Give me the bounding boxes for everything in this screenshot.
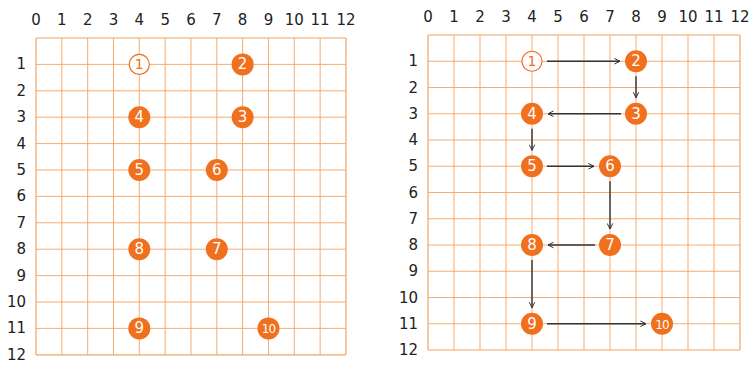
svg-text:1: 1	[528, 53, 537, 69]
grid-panel-right: 0123456789101112123456789101112123456789…	[0, 0, 754, 377]
y-tick-label: 8	[408, 236, 418, 254]
x-tick-label: 10	[678, 8, 697, 26]
x-tick-label: 8	[631, 8, 641, 26]
point-5: 5	[521, 155, 543, 177]
x-tick-label: 0	[423, 8, 433, 26]
svg-text:2: 2	[631, 52, 641, 70]
point-8: 8	[521, 234, 543, 256]
x-tick-label: 7	[605, 8, 615, 26]
coordinate-grid-right-with-path: 0123456789101112123456789101112123456789…	[0, 0, 754, 377]
y-tick-label: 3	[408, 105, 418, 123]
point-6: 6	[599, 155, 621, 177]
svg-text:10: 10	[655, 318, 669, 332]
x-tick-label: 11	[704, 8, 723, 26]
point-4: 4	[521, 103, 543, 125]
x-tick-label: 1	[449, 8, 459, 26]
svg-text:9: 9	[527, 315, 537, 333]
svg-text:6: 6	[605, 157, 615, 175]
x-tick-label: 3	[501, 8, 511, 26]
x-tick-label: 12	[730, 8, 749, 26]
point-10: 10	[651, 313, 673, 335]
y-tick-label: 7	[408, 210, 418, 228]
x-tick-label: 2	[475, 8, 485, 26]
svg-text:7: 7	[605, 236, 615, 254]
y-tick-label: 1	[408, 52, 418, 70]
y-tick-label: 9	[408, 262, 418, 280]
svg-text:5: 5	[527, 157, 537, 175]
grid-lines	[428, 35, 740, 350]
y-tick-label: 12	[399, 341, 418, 359]
point-3: 3	[625, 103, 647, 125]
x-tick-label: 5	[553, 8, 563, 26]
y-tick-label: 5	[408, 157, 418, 175]
y-tick-label: 11	[399, 315, 418, 333]
point-9: 9	[521, 313, 543, 335]
svg-text:4: 4	[527, 105, 537, 123]
x-tick-label: 6	[579, 8, 589, 26]
x-tick-label: 9	[657, 8, 667, 26]
y-tick-label: 10	[399, 289, 418, 307]
x-tick-label: 4	[527, 8, 537, 26]
svg-text:3: 3	[631, 105, 641, 123]
point-1: 1	[522, 51, 542, 71]
y-tick-label: 4	[408, 131, 418, 149]
svg-text:8: 8	[527, 236, 537, 254]
point-2: 2	[625, 50, 647, 72]
point-7: 7	[599, 234, 621, 256]
y-tick-label: 2	[408, 79, 418, 97]
y-tick-label: 6	[408, 184, 418, 202]
